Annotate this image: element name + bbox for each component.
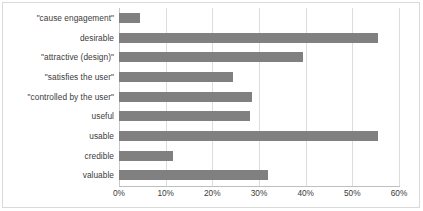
category-label: useful [92, 112, 114, 120]
bar-credible [119, 151, 173, 161]
x-tick-label: 20% [204, 189, 221, 198]
bar-track [119, 166, 419, 186]
bar-track [119, 47, 419, 67]
category-label: "satisfies the user" [45, 73, 114, 81]
bar-track [119, 146, 419, 166]
bar-row: "cause engagement" [0, 8, 423, 28]
bar-row: desirable [0, 28, 423, 48]
bar-track [119, 67, 419, 87]
bar-row: credible [0, 146, 423, 166]
bar-rows: "cause engagement" desirable "attractive… [0, 8, 423, 185]
bar-track [119, 106, 419, 126]
category-label: "cause engagement" [37, 14, 114, 22]
category-label: usable [89, 132, 114, 140]
category-label: "controlled by the user" [28, 92, 114, 100]
x-tick-label: 40% [297, 189, 314, 198]
bar-attractive-design [119, 52, 303, 62]
x-tick-label: 30% [251, 189, 268, 198]
category-label: credible [85, 152, 114, 160]
x-tick-label: 0% [113, 189, 125, 198]
x-tick-label: 60% [391, 189, 408, 198]
x-axis-line [119, 186, 400, 187]
x-tick-label: 10% [157, 189, 174, 198]
x-axis-tick-labels: 0% 10% 20% 30% 40% 50% 60% [0, 189, 423, 207]
bar-track [119, 8, 419, 28]
bar-row: "controlled by the user" [0, 87, 423, 107]
category-label: valuable [83, 171, 114, 179]
bar-valuable [119, 170, 268, 180]
bar-chart: "cause engagement" desirable "attractive… [0, 0, 423, 211]
bar-row: usable [0, 126, 423, 146]
bar-track [119, 28, 419, 48]
bar-row: "satisfies the user" [0, 67, 423, 87]
category-label: "attractive (design)" [41, 53, 114, 61]
x-tick-label: 50% [344, 189, 361, 198]
category-label: desirable [80, 33, 114, 41]
bar-row: valuable [0, 166, 423, 186]
bar-satisfies-the-user [119, 72, 233, 82]
bar-row: useful [0, 106, 423, 126]
bar-desirable [119, 33, 378, 43]
bar-row: "attractive (design)" [0, 47, 423, 67]
bar-useful [119, 111, 250, 121]
bar-track [119, 87, 419, 107]
bar-track [119, 126, 419, 146]
bar-cause-engagement [119, 13, 140, 23]
bar-usable [119, 131, 378, 141]
plot-area: "cause engagement" desirable "attractive… [0, 0, 423, 211]
bar-controlled-by-the-user [119, 92, 252, 102]
